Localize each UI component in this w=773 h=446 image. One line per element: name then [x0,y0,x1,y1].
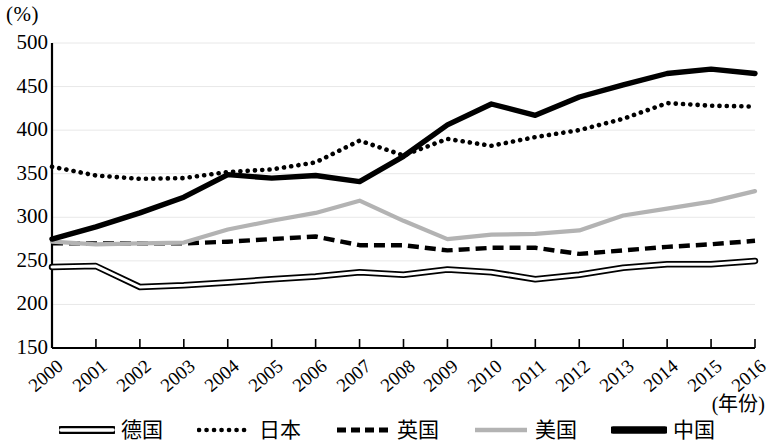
legend-label: 美国 [535,420,577,441]
legend-item-日本[interactable]: 日本 [197,420,301,441]
legend-swatch-double-line-icon [59,423,115,437]
x-axis-title: (年份) [712,388,765,417]
legend-swatch-dashed-icon [335,423,391,437]
legend-swatch-solid-thick-icon [611,423,667,437]
series-line-中国 [52,69,755,239]
legend-label: 德国 [121,420,163,441]
chart-legend: 德国日本英国美国中国 [0,414,773,446]
legend-swatch-solid-gray-icon [473,423,529,437]
legend-swatch-dotted-icon [197,423,253,437]
legend-item-德国[interactable]: 德国 [59,420,163,441]
series-line-日本 [52,103,755,179]
data-series-layer [52,69,755,287]
x-axis-tick-marks [96,339,755,348]
legend-label: 英国 [397,420,439,441]
legend-item-美国[interactable]: 美国 [473,420,577,441]
legend-item-中国[interactable]: 中国 [611,420,715,441]
axis-lines [52,43,755,348]
legend-label: 日本 [259,420,301,441]
legend-label: 中国 [673,420,715,441]
plot-area [0,0,773,446]
line-chart: (%) 500450400350300250200150 20002001200… [0,0,773,446]
legend-item-英国[interactable]: 英国 [335,420,439,441]
series-line-英国 [52,237,755,254]
